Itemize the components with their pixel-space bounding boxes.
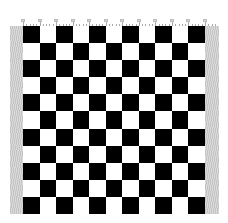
dark-square: [122, 26, 139, 43]
dark-square: [139, 180, 156, 197]
light-square: [172, 163, 189, 180]
ruler-tick-label: [203, 19, 207, 22]
light-square: [40, 129, 57, 146]
dark-square: [23, 26, 40, 43]
light-square: [40, 163, 57, 180]
light-square: [23, 180, 40, 197]
checkerboard-image[interactable]: [23, 26, 205, 214]
light-square: [155, 180, 172, 197]
dark-square: [188, 26, 205, 43]
dark-square: [155, 163, 172, 180]
light-square: [155, 111, 172, 128]
light-square: [40, 60, 57, 77]
light-square: [155, 146, 172, 163]
dark-square: [40, 77, 57, 94]
dark-square: [23, 94, 40, 111]
dark-square: [73, 77, 90, 94]
light-square: [73, 94, 90, 111]
light-square: [89, 43, 106, 60]
dark-square: [56, 60, 73, 77]
ruler-tick-label: [71, 19, 75, 22]
light-square: [122, 77, 139, 94]
light-square: [106, 60, 123, 77]
dark-square: [89, 197, 106, 214]
dark-square: [122, 60, 139, 77]
ruler-tick-label: [120, 19, 124, 22]
light-square: [56, 77, 73, 94]
dark-square: [106, 111, 123, 128]
dark-square: [188, 129, 205, 146]
dark-square: [106, 180, 123, 197]
light-square: [122, 146, 139, 163]
dark-square: [23, 197, 40, 214]
light-square: [73, 163, 90, 180]
dark-square: [139, 146, 156, 163]
ruler-tick-label: [137, 19, 141, 22]
dark-square: [89, 94, 106, 111]
dark-square: [172, 146, 189, 163]
dark-square: [89, 129, 106, 146]
light-square: [122, 43, 139, 60]
dark-square: [155, 60, 172, 77]
light-square: [172, 60, 189, 77]
dark-square: [56, 94, 73, 111]
dark-square: [23, 129, 40, 146]
dark-square: [172, 180, 189, 197]
light-square: [73, 60, 90, 77]
dark-square: [40, 43, 57, 60]
dark-square: [73, 180, 90, 197]
light-square: [155, 77, 172, 94]
dark-square: [23, 60, 40, 77]
ruler-tick-label: [21, 19, 25, 22]
dark-square: [106, 77, 123, 94]
ruler-tick-label: [87, 19, 91, 22]
light-square: [89, 180, 106, 197]
light-square: [56, 146, 73, 163]
dark-square: [73, 111, 90, 128]
light-square: [139, 129, 156, 146]
right-page-margin: [205, 26, 219, 214]
light-square: [23, 77, 40, 94]
ruler-tick-label: [104, 19, 108, 22]
light-square: [188, 180, 205, 197]
light-square: [89, 146, 106, 163]
light-square: [106, 94, 123, 111]
dark-square: [56, 163, 73, 180]
dark-square: [106, 146, 123, 163]
dark-square: [139, 43, 156, 60]
light-square: [73, 197, 90, 214]
dark-square: [40, 180, 57, 197]
light-square: [73, 26, 90, 43]
ruler-tick-label: [38, 19, 42, 22]
ruler-tick-label: [54, 19, 58, 22]
light-square: [172, 129, 189, 146]
left-page-margin: [10, 26, 23, 214]
light-square: [23, 43, 40, 60]
light-square: [122, 180, 139, 197]
dark-square: [89, 26, 106, 43]
dark-square: [172, 77, 189, 94]
light-square: [172, 26, 189, 43]
light-square: [106, 26, 123, 43]
light-square: [23, 146, 40, 163]
light-square: [188, 111, 205, 128]
dark-square: [172, 43, 189, 60]
light-square: [56, 111, 73, 128]
ruler-tick-label: [186, 19, 190, 22]
dark-square: [155, 129, 172, 146]
light-square: [40, 197, 57, 214]
dark-square: [122, 94, 139, 111]
dark-square: [23, 163, 40, 180]
light-square: [40, 94, 57, 111]
dark-square: [188, 94, 205, 111]
light-square: [106, 163, 123, 180]
dark-square: [122, 163, 139, 180]
light-square: [56, 180, 73, 197]
light-square: [139, 197, 156, 214]
light-square: [172, 94, 189, 111]
light-square: [188, 43, 205, 60]
dark-square: [139, 111, 156, 128]
dark-square: [139, 77, 156, 94]
dark-square: [155, 94, 172, 111]
dark-square: [73, 146, 90, 163]
